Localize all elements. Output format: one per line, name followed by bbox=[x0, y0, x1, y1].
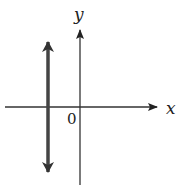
y-axis-label: y bbox=[73, 4, 84, 24]
origin-label: 0 bbox=[67, 110, 77, 128]
coordinate-diagram: y x 0 bbox=[0, 0, 196, 188]
x-axis-label: x bbox=[166, 98, 176, 118]
